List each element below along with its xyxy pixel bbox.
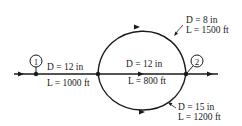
lower-length-label: L = 1200 ft — [178, 112, 221, 122]
flow-arrow-inlet — [18, 72, 24, 77]
middle-diameter-label: D = 12 in — [126, 59, 162, 69]
node-1-label: 1 — [34, 57, 39, 67]
inlet-length-label: L = 1000 ft — [47, 78, 90, 88]
flow-arrow-upper — [134, 25, 140, 30]
node-2-label: 2 — [195, 57, 200, 67]
flow-arrow-outlet — [207, 72, 213, 77]
junction-left-dot — [96, 72, 100, 76]
pipe-network-diagram: 1 2 D = 12 in L = 1000 ft D = 12 in L = … — [0, 0, 242, 126]
inlet-diameter-label: D = 12 in — [47, 62, 83, 72]
upper-diameter-label: D = 8 in — [186, 15, 218, 25]
lower-diameter-label: D = 15 in — [178, 102, 214, 112]
middle-length-label: L = 800 ft — [128, 76, 166, 86]
upper-length-label: L = 1500 ft — [186, 25, 229, 35]
